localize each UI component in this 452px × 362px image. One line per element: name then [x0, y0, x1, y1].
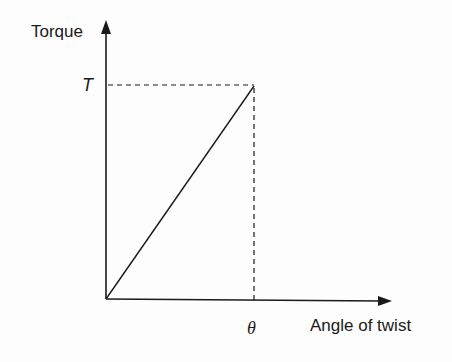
x-axis	[106, 299, 382, 301]
x-tick-label: θ	[247, 318, 256, 339]
y-axis-arrow-icon	[101, 20, 111, 34]
y-tick-label: T	[82, 75, 93, 96]
torque-line	[106, 86, 254, 299]
x-axis-arrow-icon	[378, 296, 392, 306]
chart-plot-area	[0, 0, 452, 362]
y-axis-label: Torque	[31, 22, 83, 42]
torque-twist-chart: Torque T θ Angle of twist	[0, 0, 452, 362]
x-axis-label: Angle of twist	[310, 316, 411, 336]
